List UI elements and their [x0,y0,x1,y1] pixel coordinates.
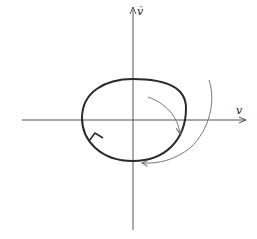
x-axis-label: v [236,104,243,117]
y-axis-label: v̇ [137,5,144,18]
inner-trajectory [148,97,180,134]
cycle-direction-arrow-icon [89,133,103,141]
phase-portrait-diagram: v v̇ [0,0,257,239]
